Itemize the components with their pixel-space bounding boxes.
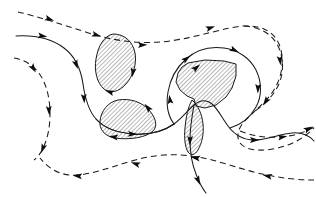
arrow-left-dashed-3: [38, 143, 47, 154]
arrow-top-dashed-6: [261, 96, 271, 107]
arrow-top-dashed-4: [205, 24, 216, 32]
lower-blob-region: [100, 99, 156, 138]
arrow-low-dashed-4: [72, 173, 82, 180]
lower-dashed-streamline: [40, 155, 314, 180]
streamline-layer: [14, 12, 314, 193]
arrow-inner-loop-2: [229, 46, 240, 55]
arrow-left-dashed-1: [28, 63, 38, 74]
arrow-top-dashed-1: [44, 15, 55, 24]
lower-left-dashed-streamline: [14, 58, 50, 160]
arrow-left-dashed-2: [46, 106, 52, 116]
arrow-marker-layer: [28, 15, 314, 186]
flow-diagram-canvas: [0, 0, 316, 197]
arrow-top-dashed-2: [91, 31, 102, 39]
right-outer-dashed-loop: [244, 26, 283, 112]
upper-lens-region: [95, 34, 135, 92]
flow-diagram-svg: [0, 0, 316, 197]
top-dashed-streamline: [18, 12, 282, 110]
arrow-center-down-2: [194, 175, 203, 186]
